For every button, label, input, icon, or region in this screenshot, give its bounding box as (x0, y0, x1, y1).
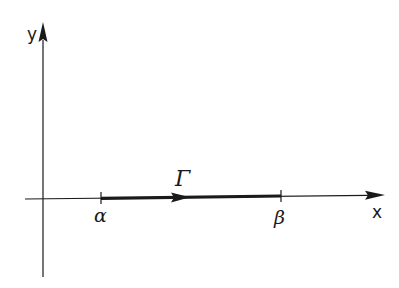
y-axis: y (27, 22, 48, 277)
y-axis-arrow-icon (39, 22, 48, 42)
x-axis-label: x (372, 202, 382, 222)
beta-label: β (273, 206, 285, 228)
contour-diagram: y x Γ α β (0, 0, 399, 288)
contour-gamma: Γ (101, 166, 281, 202)
alpha-label: α (94, 204, 107, 226)
x-axis-arrow-icon (365, 191, 385, 200)
contour-label: Γ (174, 166, 191, 191)
contour-segment (101, 196, 281, 198)
y-axis-label: y (27, 24, 37, 44)
